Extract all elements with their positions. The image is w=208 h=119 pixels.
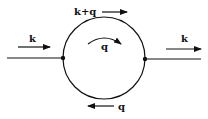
left-vertex	[61, 56, 65, 60]
lower-propagator-label: q	[118, 101, 125, 112]
upper-propagator-label: k+q	[74, 6, 96, 17]
feynman-diagram: k k k+q q q	[0, 0, 208, 119]
outgoing-momentum-label: k	[181, 33, 189, 44]
diagram-canvas: k k k+q q q	[0, 0, 208, 119]
loop-circle	[63, 17, 145, 99]
incoming-momentum-label: k	[29, 33, 37, 44]
loop-momentum-label: q	[101, 41, 108, 52]
